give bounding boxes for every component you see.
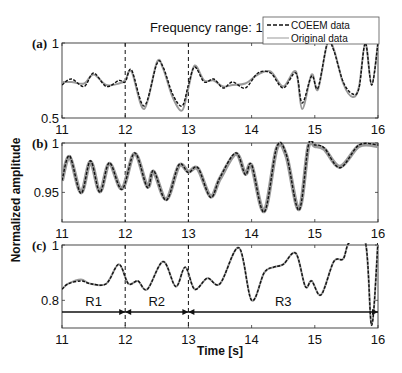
x-tick-label: 15 [308,332,322,347]
region-label: R1 [85,294,102,309]
x-tick-label: 12 [118,122,132,137]
panel-b: 1112131415160.951(b) [32,136,385,241]
y-tick-label: 0.5 [41,111,59,126]
legend-entry-coeem: COEEM data [291,20,350,31]
x-tick-label: 14 [244,226,258,241]
y-tick-label: 1 [52,36,59,51]
region-label: R3 [275,294,292,309]
x-tick-label: 16 [371,332,385,347]
x-tick-label: 16 [371,226,385,241]
panel-label: (a) [32,36,47,51]
x-tick-label: 13 [181,332,195,347]
x-tick-label: 13 [181,122,195,137]
x-tick-label: 12 [118,226,132,241]
x-tick-label: 11 [55,332,69,347]
x-axis-label: Time [s] [197,344,243,358]
panel-label: (b) [32,136,48,151]
x-tick-label: 15 [308,122,322,137]
y-tick-label: 0.95 [34,185,59,200]
plot-frame [62,245,378,328]
x-tick-label: 15 [308,226,322,241]
x-tick-label: 14 [244,122,258,137]
panel-label: (c) [32,238,46,253]
panel-a: 1112131415160.51(a) [32,36,385,137]
chart-figure: Frequency range: 1-4Hz Normalized amplit… [0,0,402,373]
y-tick-label: 0.8 [41,293,59,308]
x-tick-label: 14 [244,332,258,347]
x-tick-label: 13 [181,226,195,241]
legend-entry-original: Original data [291,33,348,44]
y-tick-label: 1 [52,238,59,253]
panel-c: 1112131415160.81(c)R1R2R3 [32,235,385,347]
plot-frame [62,43,378,118]
y-axis-label: Normalized amplitude [9,137,23,262]
x-tick-label: 16 [371,122,385,137]
y-tick-label: 1 [52,136,59,151]
region-label: R2 [148,294,165,309]
legend: COEEM data Original data [263,17,379,44]
x-tick-label: 12 [118,332,132,347]
